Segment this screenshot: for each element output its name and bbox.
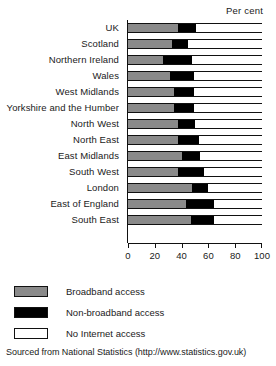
bar-segment-broadband (128, 56, 163, 64)
category-label: East of England (0, 196, 124, 212)
x-tick-label: 60 (203, 250, 214, 261)
bar-row (128, 20, 262, 36)
category-label: South East (0, 212, 124, 228)
chart-legend: Broadband accessNon-broadband accessNo I… (14, 281, 262, 344)
stacked-bar (128, 87, 262, 97)
category-label: Northern Ireland (0, 52, 124, 68)
category-label: North West (0, 116, 124, 132)
bar-segment-nointernet (195, 120, 262, 128)
category-label: North East (0, 132, 124, 148)
bar-segment-nointernet (204, 168, 262, 176)
category-label: East Midlands (0, 148, 124, 164)
bar-row (128, 212, 262, 228)
category-label: Wales (0, 68, 124, 84)
bar-segment-nointernet (214, 200, 262, 208)
bar-segment-nonbroadband (163, 56, 192, 64)
legend-label: Non-broadband access (66, 307, 164, 318)
bar-segment-nonbroadband (178, 136, 199, 144)
stacked-bar (128, 199, 262, 209)
stacked-bar (128, 23, 262, 33)
source-note: Sourced from National Statistics (http:/… (6, 347, 246, 357)
stacked-bar (128, 151, 262, 161)
stacked-bar-chart: Per cent UKScotlandNorthern IrelandWales… (0, 0, 276, 366)
category-label: London (0, 180, 124, 196)
x-tick-label: 0 (125, 250, 130, 261)
bar-row (128, 116, 262, 132)
bar-segment-nonbroadband (186, 200, 214, 208)
bar-segment-broadband (128, 24, 178, 32)
x-tick-label: 20 (150, 250, 161, 261)
stacked-bar (128, 55, 262, 65)
bar-row (128, 196, 262, 212)
bar-row (128, 148, 262, 164)
bar-segment-broadband (128, 200, 186, 208)
legend-swatch-nointernet (14, 328, 48, 339)
bar-segment-broadband (128, 40, 172, 48)
bar-segment-nointernet (194, 88, 262, 96)
legend-item: Broadband access (14, 281, 262, 302)
stacked-bar (128, 39, 262, 49)
x-tick (208, 243, 209, 248)
bar-segment-nointernet (196, 24, 262, 32)
x-tick-label: 40 (176, 250, 187, 261)
x-tick (128, 243, 129, 248)
stacked-bar (128, 135, 262, 145)
legend-swatch-nonbroadband (14, 307, 48, 318)
bar-segment-broadband (128, 72, 170, 80)
bar-segment-nointernet (194, 72, 262, 80)
bar-segment-nointernet (208, 184, 262, 192)
bar-row (128, 52, 262, 68)
category-label: UK (0, 20, 124, 36)
bar-segment-nonbroadband (182, 152, 201, 160)
category-label: West Midlands (0, 84, 124, 100)
bar-segment-nonbroadband (178, 120, 195, 128)
category-axis-labels: UKScotlandNorthern IrelandWalesWest Midl… (0, 20, 124, 242)
bar-segment-broadband (128, 216, 191, 224)
x-tick (182, 243, 183, 248)
bar-rows (128, 20, 262, 242)
bar-row (128, 100, 262, 116)
bar-segment-broadband (128, 168, 178, 176)
bar-segment-broadband (128, 136, 178, 144)
bar-segment-broadband (128, 88, 174, 96)
legend-label: No Internet access (66, 328, 145, 339)
x-tick-label: 100 (254, 250, 270, 261)
bar-segment-nonbroadband (191, 216, 214, 224)
legend-swatch-broadband (14, 286, 48, 297)
bar-segment-nonbroadband (192, 184, 208, 192)
category-label: Yorkshire and the Humber (0, 100, 124, 116)
bar-row (128, 36, 262, 52)
x-axis-ticks (128, 243, 262, 248)
stacked-bar (128, 167, 262, 177)
bar-row (128, 132, 262, 148)
stacked-bar (128, 183, 262, 193)
bar-segment-nointernet (214, 216, 262, 224)
bar-segment-nonbroadband (170, 72, 194, 80)
plot-area (128, 20, 262, 242)
bar-segment-nonbroadband (174, 104, 194, 112)
bar-segment-nointernet (199, 136, 262, 144)
bar-segment-broadband (128, 120, 178, 128)
x-tick (235, 243, 236, 248)
stacked-bar (128, 103, 262, 113)
stacked-bar (128, 215, 262, 225)
stacked-bar (128, 119, 262, 129)
bar-row (128, 180, 262, 196)
bar-segment-nonbroadband (174, 88, 194, 96)
bar-segment-nointernet (192, 56, 262, 64)
stacked-bar (128, 71, 262, 81)
category-label: South West (0, 164, 124, 180)
bar-row (128, 164, 262, 180)
bar-segment-broadband (128, 152, 182, 160)
legend-label: Broadband access (66, 286, 145, 297)
legend-item: Non-broadband access (14, 302, 262, 323)
bar-segment-nonbroadband (178, 24, 197, 32)
bar-segment-nonbroadband (172, 40, 188, 48)
bar-segment-broadband (128, 184, 192, 192)
x-tick-label: 80 (230, 250, 241, 261)
bar-segment-broadband (128, 104, 174, 112)
bar-segment-nonbroadband (178, 168, 205, 176)
bar-segment-nointernet (188, 40, 262, 48)
legend-item: No Internet access (14, 323, 262, 344)
bar-segment-nointernet (194, 104, 262, 112)
